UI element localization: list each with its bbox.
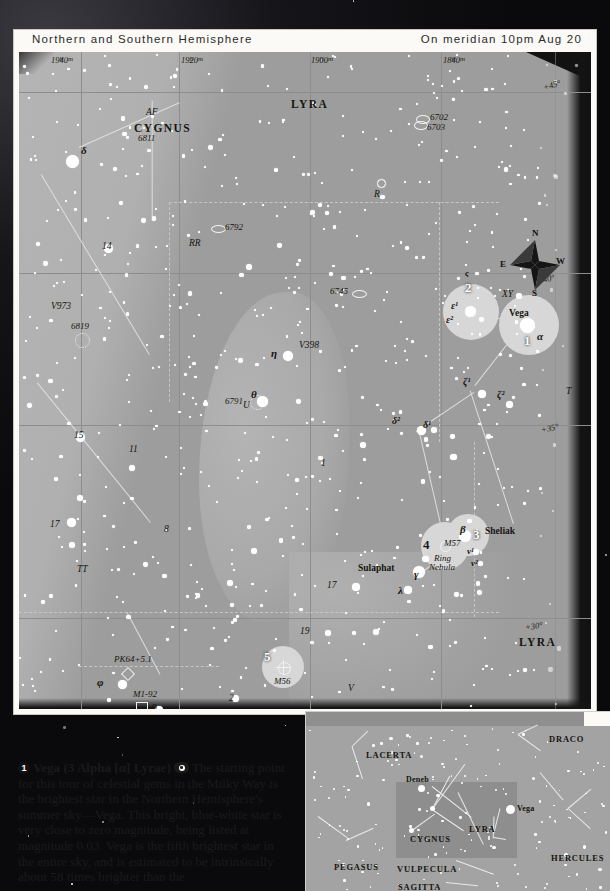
field-star [491,668,493,670]
inset-field-star [522,733,525,736]
field-star [443,500,445,502]
field-star [220,292,222,294]
field-star [74,208,77,211]
field-star [557,646,562,651]
field-star [152,367,154,369]
field-star [523,502,526,505]
inset-field-star [464,775,466,777]
field-star [113,167,117,171]
inset-field-star [539,800,542,803]
star-zeta1-lyrae[interactable] [478,390,486,398]
field-star [333,225,337,229]
field-star [294,276,296,278]
field-star [360,270,363,273]
field-star [351,349,354,352]
field-star [419,181,421,183]
field-star [540,535,542,537]
inset-field-star [593,769,595,771]
sky-map[interactable]: 19h40m 19h20m 19h00m 18h40m +45° +40° +3… [19,52,591,709]
field-star [156,54,158,56]
field-star [418,144,420,146]
inset-field-star [564,864,567,867]
star-17-lyrae[interactable] [352,583,360,591]
galaxy-6703[interactable] [414,121,428,130]
field-star [449,619,451,621]
field-star [536,384,538,386]
inset-star-sadr[interactable] [430,806,435,811]
field-star [284,206,286,208]
field-star [460,594,463,597]
inset-star-vega[interactable] [506,805,515,814]
field-star [466,241,468,243]
inset-field-star [387,760,390,763]
tour-number-1[interactable]: 1 [524,333,531,349]
inset-star-deneb[interactable] [418,785,425,792]
field-star [499,353,502,356]
field-star [426,444,429,447]
variable-label-v398: V398 [299,340,319,350]
field-star [539,487,543,491]
field-star [55,630,57,632]
field-star [288,287,290,289]
planetary-6745[interactable] [352,290,367,298]
star-phi-cygni[interactable] [118,680,127,689]
star-eta-cygni[interactable] [283,351,293,361]
globular-cluster-m56[interactable] [278,662,291,675]
field-star [182,154,186,158]
field-star [104,55,106,57]
inset-label-lyra: LYRA [469,824,496,834]
tour-number-5[interactable]: 5 [264,649,271,665]
field-star [509,354,513,358]
field-star [201,588,203,590]
field-star [498,166,500,168]
star-zeta2-lyrae[interactable] [506,401,513,408]
inset-field-star [357,845,360,848]
field-star [296,399,301,404]
open-cluster-6819[interactable] [75,333,90,348]
inset-field-star [391,764,393,766]
inset-label-cygnus: CYGNUS [410,834,451,844]
field-star [311,418,314,421]
field-star [476,581,481,586]
field-star [465,264,467,266]
field-star [428,233,430,235]
variable-label-rr: RR [189,238,201,248]
field-star [450,367,453,370]
star-vega[interactable] [520,318,535,333]
star-delta1-lyrae[interactable] [431,427,437,433]
inset-star-albireo[interactable] [409,828,414,833]
field-star [453,80,456,83]
nebula-m1-92[interactable] [136,702,148,709]
greek-label-zeta1: ζ¹ [463,376,470,387]
field-star [111,569,113,571]
locator-inset-map[interactable]: DRACO LACERTA Deneb Vega CYGNUS LYRA HER… [306,712,610,891]
star-r-lyrae[interactable] [377,179,386,188]
field-star [56,121,58,123]
tour-number-3[interactable]: 3 [473,527,480,543]
field-star [125,175,127,177]
inset-field-star [495,789,497,791]
inset-field-star [567,770,570,773]
inset-field-star [314,771,316,773]
star-lambda-lyrae[interactable] [404,586,412,594]
field-star [491,231,494,234]
planetary-6792[interactable] [211,225,226,233]
tour-number-2[interactable]: 2 [465,280,472,296]
star-nu2-lyrae[interactable] [478,561,483,566]
field-star [31,678,33,680]
field-star [134,541,137,544]
tour-number-4[interactable]: 4 [423,537,430,553]
field-star [344,560,346,562]
inset-field-star [455,758,457,760]
star-19-lyrae[interactable] [325,630,331,636]
star-delta-cygni[interactable] [66,155,79,168]
variable-label-t: T [566,386,571,396]
inset-label-lacerta: LACERTA [366,750,412,760]
field-star [483,452,485,454]
field-star [506,411,508,413]
field-star [77,495,83,501]
field-star [497,468,499,470]
field-star [108,327,110,329]
field-star [244,432,246,434]
field-star [55,90,57,92]
